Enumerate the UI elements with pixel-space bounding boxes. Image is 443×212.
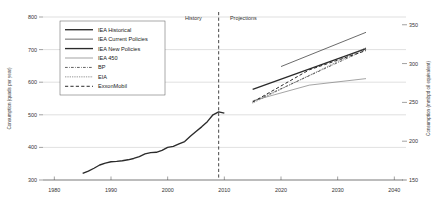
legend-label-iea-historical: IEA Historical [98, 27, 131, 33]
series-line-bp [253, 50, 366, 102]
tick-label-x: 2000 [162, 187, 174, 193]
legend-label-iea-450: IEA 450 [98, 55, 118, 61]
tick-label-y-left: 500 [28, 112, 37, 118]
tick-label-y-right: 150 [409, 177, 418, 183]
tick-label-x: 2020 [275, 187, 287, 193]
y-axis-title: Consumption (quads per year) [7, 67, 12, 130]
tick-label-y-left: 300 [28, 177, 37, 183]
legend-label-iea-new-policies: IEA New Policies [98, 46, 140, 52]
chart-container: 3004005006007008001502002503003501980199… [0, 0, 443, 212]
tick-label-x: 2040 [388, 187, 400, 193]
tick-label-x: 2010 [218, 187, 230, 193]
legend-label-bp: BP [98, 64, 106, 70]
tick-label-x: 1990 [105, 187, 117, 193]
tick-label-x: 1980 [48, 187, 60, 193]
tick-label-y-right: 200 [409, 138, 418, 144]
tick-label-x: 2030 [332, 187, 344, 193]
tick-label-y-left: 600 [28, 79, 37, 85]
tick-label-y-right: 300 [409, 61, 418, 67]
legend-label-eia: EIA [98, 74, 107, 80]
tick-label-y-left: 400 [28, 144, 37, 150]
tick-label-y-left: 700 [28, 47, 37, 53]
tick-label-y-left: 800 [28, 14, 37, 20]
series-line-iea-new-policies [253, 49, 366, 90]
legend-label-exxonmobil: ExxonMobil [98, 83, 127, 89]
tick-label-y-right: 250 [409, 99, 418, 105]
y2-axis-title: Consumption (mmbpd oil equivalent) [426, 61, 431, 136]
annotation-history: History [185, 15, 202, 21]
series-line-iea-450 [253, 79, 366, 101]
legend-label-iea-current-policies: IEA Current Policies [98, 36, 148, 42]
line-chart: 3004005006007008001502002503003501980199… [0, 0, 443, 212]
annotation-projections: Projections [230, 15, 257, 21]
series-line-iea-historical [83, 112, 225, 174]
tick-label-y-right: 350 [409, 22, 418, 28]
